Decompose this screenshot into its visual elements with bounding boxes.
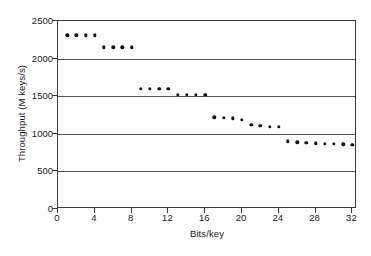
x-axis-tick-mark	[315, 208, 316, 213]
y-axis-tick-label: 1000	[7, 127, 53, 138]
scatter-chart: Throughput (M keys/s) Bits/key 050010001…	[0, 0, 371, 256]
y-axis-tick-label: 2000	[7, 52, 53, 63]
x-axis-tick-label: 4	[79, 212, 109, 223]
gridline	[58, 96, 355, 97]
data-point	[332, 142, 335, 145]
data-point	[148, 87, 151, 90]
data-point	[268, 125, 271, 128]
gridline	[58, 134, 355, 135]
x-axis-tick-mark	[204, 208, 205, 213]
x-axis-tick-mark	[241, 208, 242, 213]
data-point	[75, 34, 78, 37]
x-axis-tick-mark	[351, 208, 352, 213]
y-axis-tick-label: 500	[7, 165, 53, 176]
data-point	[286, 140, 289, 143]
data-point	[65, 34, 68, 37]
x-axis-tick-mark	[131, 208, 132, 213]
x-axis-tick-label: 24	[263, 212, 293, 223]
data-point	[259, 124, 262, 127]
data-point	[341, 143, 344, 146]
data-point	[121, 46, 124, 49]
x-axis-tick-label: 8	[116, 212, 146, 223]
x-axis-tick-label: 0	[42, 212, 72, 223]
data-point	[351, 143, 354, 146]
data-point	[240, 118, 243, 121]
data-point	[93, 34, 96, 37]
gridline	[58, 59, 355, 60]
data-point	[213, 116, 216, 119]
data-point	[323, 142, 326, 145]
y-axis-tick-label: 1500	[7, 90, 53, 101]
x-axis-tick-mark	[278, 208, 279, 213]
x-axis-tick-mark	[94, 208, 95, 213]
data-point	[139, 87, 142, 90]
x-axis-tick-label: 28	[300, 212, 330, 223]
x-axis-tick-mark	[57, 208, 58, 213]
x-axis-tick-label: 16	[189, 212, 219, 223]
data-point	[130, 46, 133, 49]
data-point	[314, 141, 317, 144]
data-point	[167, 87, 170, 90]
data-point	[231, 117, 234, 120]
data-point	[295, 141, 298, 144]
x-axis-title: Bits/key	[57, 228, 357, 239]
plot-area	[57, 20, 356, 208]
data-point	[222, 116, 225, 119]
data-point	[84, 34, 87, 37]
x-axis-tick-label: 12	[152, 212, 182, 223]
x-axis-tick-mark	[167, 208, 168, 213]
data-point	[102, 46, 105, 49]
x-axis-tick-label: 32	[336, 212, 366, 223]
data-point	[249, 123, 252, 126]
data-point	[111, 46, 114, 49]
y-axis-tick-label: 2500	[7, 15, 53, 26]
gridline	[58, 171, 355, 172]
data-point	[305, 141, 308, 144]
data-point	[277, 125, 280, 128]
data-point	[157, 87, 160, 90]
x-axis-tick-label: 20	[226, 212, 256, 223]
